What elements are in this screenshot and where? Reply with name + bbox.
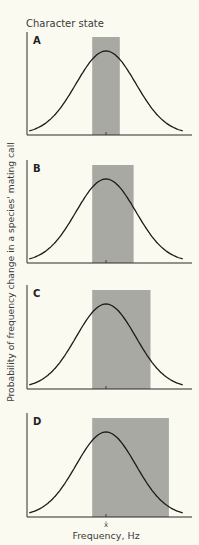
panel-a: A (27, 32, 192, 135)
x-axis-label: Frequency, Hz (72, 530, 139, 541)
panel-c: C (27, 285, 192, 389)
shaded-band (92, 37, 120, 135)
panel-label: C (33, 288, 40, 299)
chart: Character state Probability of frequency… (0, 0, 199, 545)
panel-b: B (27, 160, 192, 263)
panel-label: B (33, 163, 41, 174)
y-axis-label: Probability of frequency change in a spe… (5, 142, 16, 402)
panel-label: D (33, 416, 41, 427)
chart-title: Character state (26, 18, 104, 29)
panel-d: D (27, 413, 192, 517)
x-tick-label-mean: x̄ (104, 521, 108, 529)
panel-label: A (33, 35, 41, 46)
shaded-band (92, 165, 133, 263)
